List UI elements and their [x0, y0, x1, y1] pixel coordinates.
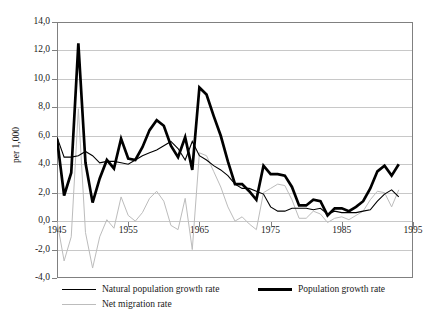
series-line-natural-population-growth-rate	[57, 137, 399, 214]
series-line-net-migration-rate	[57, 109, 399, 268]
legend-label-population: Population growth rate	[298, 284, 385, 295]
chart-legend: Natural population growth rate Populatio…	[62, 282, 437, 312]
series-layer	[57, 22, 413, 278]
legend-label-migration: Net migration rate	[102, 299, 172, 310]
line-swatch-natural-icon	[62, 289, 96, 290]
legend-item-net-migration-rate: Net migration rate	[62, 297, 172, 312]
chart-container: 14,012,010,08,06,04,02,00,0-2,0-4,0 per …	[0, 0, 440, 320]
legend-item-natural-population-growth-rate: Natural population growth rate	[62, 282, 219, 297]
line-swatch-population-icon	[258, 288, 292, 291]
series-line-population-growth-rate	[57, 43, 399, 215]
x-tick-mark	[413, 222, 414, 227]
line-swatch-migration-icon	[62, 304, 96, 305]
legend-label-natural: Natural population growth rate	[102, 284, 219, 295]
legend-item-population-growth-rate: Population growth rate	[258, 282, 385, 297]
